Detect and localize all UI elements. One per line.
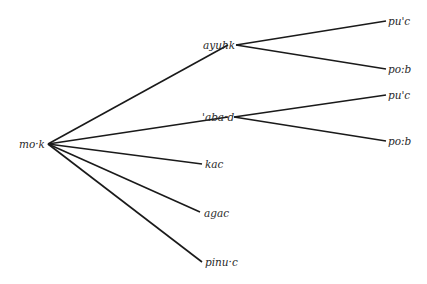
node-abad-pob: po:b (388, 136, 411, 147)
node-agac: agac (204, 208, 229, 219)
edge-root-abad (48, 117, 228, 144)
node-ayuhk: ayuhk (203, 40, 235, 51)
edge-abad-po (234, 117, 386, 141)
node-ayuhk-pob: po:b (388, 64, 411, 75)
node-abad: 'aba·d (202, 112, 234, 123)
edge-ayuhk-pu (236, 21, 386, 45)
node-pinuc: pinu·c (205, 257, 238, 268)
node-ayuhk-puc: pu'c (388, 16, 410, 27)
node-root: mo·k (19, 139, 45, 150)
node-abad-puc: pu'c (388, 90, 410, 101)
node-kac: kac (205, 159, 224, 170)
edge-abad-pu (234, 95, 386, 117)
edge-ayuhk-po (236, 45, 386, 69)
edge-root-ayuhk (48, 45, 228, 144)
